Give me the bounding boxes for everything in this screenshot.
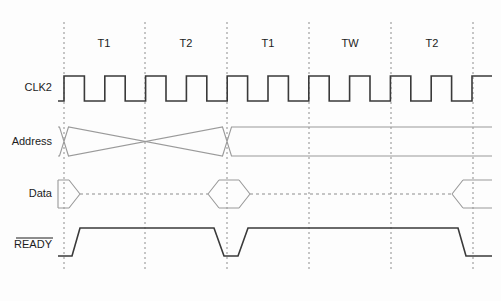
state-label-0: T1 [98,37,111,49]
timing-diagram-root: T1T2T1TWT2 CLK2AddressDataREADY [0,0,501,301]
state-label-3: TW [341,37,359,49]
state-label-4: T2 [426,37,439,49]
ready-waveform [58,228,492,256]
address-bus-waveform [58,127,492,156]
signal-label-group: CLK2AddressDataREADY [12,81,53,250]
timing-diagram-canvas: T1T2T1TWT2 CLK2AddressDataREADY [0,0,501,301]
signal-label-data: Data [29,187,53,199]
state-label-2: T1 [262,37,275,49]
data-waveform-row [58,180,492,208]
state-label-1: T2 [180,37,193,49]
signal-label-ready: READY [14,238,53,250]
period-gridlines [64,22,473,272]
ready-waveform-row [58,228,492,256]
address-waveform-row [58,127,492,156]
signal-label-address: Address [12,135,53,147]
state-label-group: T1T2T1TWT2 [98,37,439,49]
signal-label-clk2: CLK2 [24,81,52,93]
clk2-waveform-row [58,76,492,101]
clk2-waveform [58,76,492,101]
